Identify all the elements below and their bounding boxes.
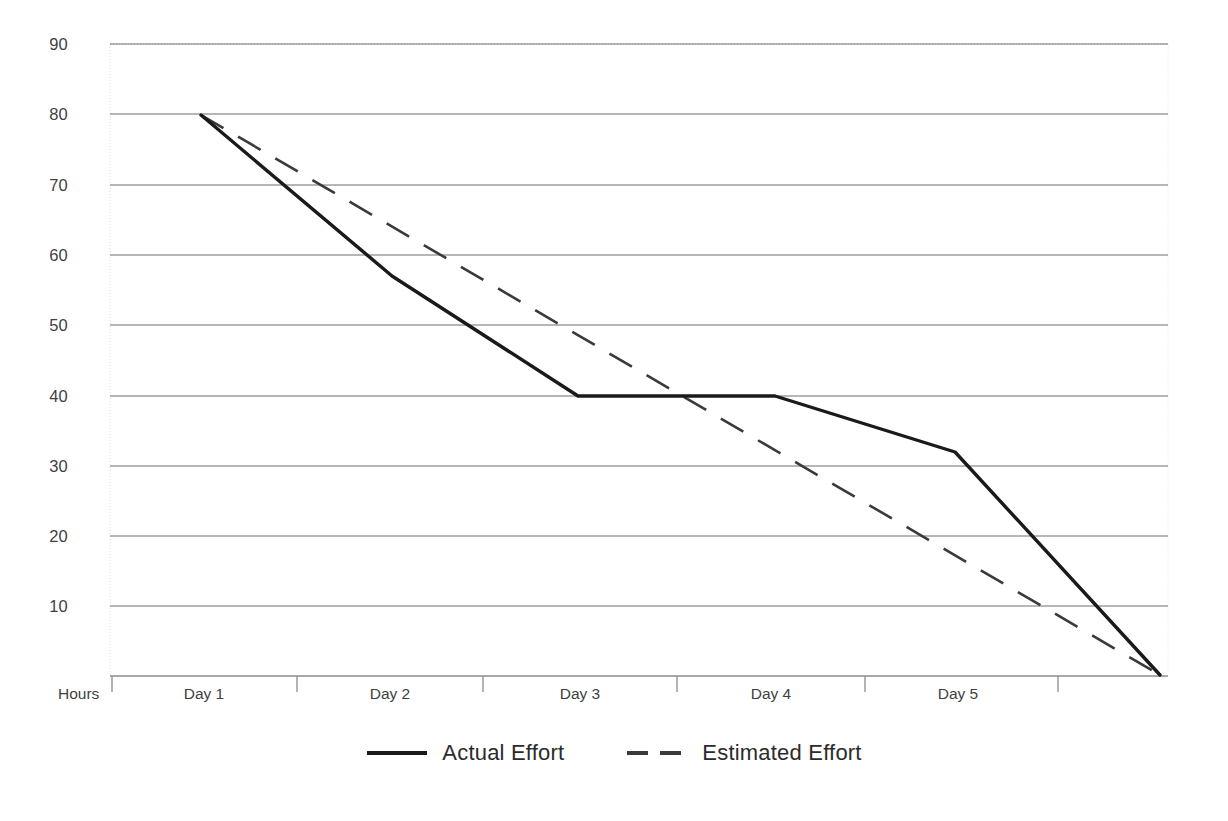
ytick-label: 30: [8, 457, 68, 476]
legend-swatch-solid-icon: [366, 748, 428, 758]
legend-entry-actual-effort[interactable]: Actual Effort: [366, 740, 564, 766]
ytick-label: 40: [8, 387, 68, 406]
xtick-label-day-2: Day 2: [370, 685, 411, 703]
xtick-label-day-1: Day 1: [184, 685, 225, 703]
legend-label: Estimated Effort: [702, 740, 861, 766]
ytick-label: 80: [8, 105, 68, 124]
legend-label: Actual Effort: [442, 740, 564, 766]
chart-legend: Actual Effort Estimated Effort: [0, 740, 1228, 766]
xtick-label-day-3: Day 3: [560, 685, 601, 703]
series-line-actual-effort: [201, 115, 1160, 675]
legend-swatch-dashed-icon: [626, 748, 688, 758]
xtick-label-day-4: Day 4: [751, 685, 792, 703]
xtick-label-day-5: Day 5: [938, 685, 979, 703]
ytick-label: 60: [8, 246, 68, 265]
plot-frame: [110, 44, 1168, 675]
ytick-label: 10: [8, 597, 68, 616]
ytick-label: 20: [8, 527, 68, 546]
ytick-label: 70: [8, 176, 68, 195]
x-axis-label: Hours: [58, 685, 99, 703]
chart-page: 90 80 70 60 50 40 30 20 10 Hours Day 1 D…: [0, 0, 1228, 821]
gridlines: [110, 44, 1168, 606]
x-axis: [110, 676, 1168, 692]
ytick-label: 90: [8, 35, 68, 54]
legend-entry-estimated-effort[interactable]: Estimated Effort: [626, 740, 861, 766]
ytick-label: 50: [8, 316, 68, 335]
